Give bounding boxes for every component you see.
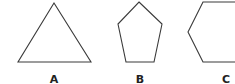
pentagon-shape: [118, 2, 162, 62]
triangle-shape: [18, 3, 91, 62]
label-c: C: [222, 73, 230, 84]
label-a: A: [50, 73, 59, 84]
hexagon-shape: [188, 2, 235, 62]
label-b: B: [136, 73, 144, 84]
shapes-diagram: A B C: [0, 0, 235, 84]
